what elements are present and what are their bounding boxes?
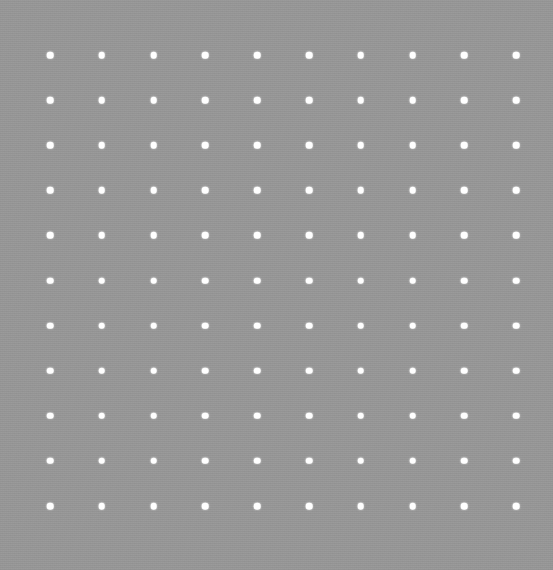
grid-dot [358,142,365,149]
grid-dot [150,52,157,59]
grid-dot [150,232,157,239]
grid-dot [461,458,468,465]
grid-dot [99,367,106,374]
grid-dot [47,367,54,374]
grid-dot [513,232,520,239]
grid-dot [358,458,365,465]
dot-grid-layer [0,0,553,570]
grid-dot [99,232,106,239]
grid-dot [202,458,209,465]
grid-dot [513,142,520,149]
grid-dot [306,232,313,239]
grid-dot [358,367,365,374]
grid-dot [358,97,365,104]
grid-dot [99,277,106,284]
grid-dot [99,52,106,59]
grid-dot [306,503,313,510]
grid-dot [513,322,520,329]
grid-dot [513,503,520,510]
grid-dot [306,458,313,465]
grid-dot [254,187,261,194]
grid-dot [47,277,54,284]
grid-dot [513,458,520,465]
grid-dot [202,367,209,374]
grid-dot [409,367,416,374]
grid-dot [409,52,416,59]
grid-dot [99,322,106,329]
grid-dot [306,142,313,149]
grid-dot [150,322,157,329]
grid-dot [202,187,209,194]
grid-dot [47,503,54,510]
grid-dot [306,367,313,374]
grid-dot [461,367,468,374]
grid-dot [99,142,106,149]
grid-dot [254,322,261,329]
grid-dot [358,232,365,239]
grid-dot [150,367,157,374]
grid-dot [409,503,416,510]
grid-dot [513,52,520,59]
grid-dot [461,277,468,284]
grid-dot [47,232,54,239]
grid-dot [358,503,365,510]
grid-dot [254,367,261,374]
grid-dot [409,458,416,465]
grid-dot [150,187,157,194]
grid-dot [47,413,54,420]
grid-dot [254,142,261,149]
grid-dot [409,142,416,149]
grid-dot [461,142,468,149]
grid-dot [150,503,157,510]
grid-dot [461,52,468,59]
grid-dot [461,187,468,194]
grid-dot [150,142,157,149]
grid-dot [99,458,106,465]
grid-dot [409,97,416,104]
grid-dot [254,97,261,104]
grid-dot [99,187,106,194]
grid-dot [306,322,313,329]
grid-dot [306,187,313,194]
grid-dot [461,97,468,104]
grid-dot [461,322,468,329]
grid-dot [461,232,468,239]
grid-dot [358,187,365,194]
grid-dot [47,187,54,194]
grid-dot [254,52,261,59]
grid-dot [202,322,209,329]
grid-dot [202,277,209,284]
grid-dot [47,322,54,329]
grid-dot [254,458,261,465]
grid-dot [99,413,106,420]
grid-dot [461,503,468,510]
grid-dot [409,413,416,420]
grid-dot [513,187,520,194]
grid-dot [47,97,54,104]
grid-dot [47,142,54,149]
grid-dot [47,458,54,465]
grid-dot [513,277,520,284]
grid-dot [150,413,157,420]
grid-dot [202,503,209,510]
grid-dot [306,413,313,420]
grid-dot [306,52,313,59]
grid-dot [202,142,209,149]
grid-dot [254,413,261,420]
grid-dot [150,277,157,284]
grid-dot [254,232,261,239]
grid-dot [150,458,157,465]
grid-dot [513,97,520,104]
grid-dot [47,52,54,59]
grid-dot [461,413,468,420]
grid-dot [150,97,157,104]
grid-dot [254,277,261,284]
grid-dot [513,413,520,420]
grid-dot [99,97,106,104]
grid-dot [358,322,365,329]
grid-dot [409,187,416,194]
grid-dot [306,97,313,104]
dot-grid-canvas [0,0,553,570]
grid-dot [513,367,520,374]
grid-dot [409,322,416,329]
